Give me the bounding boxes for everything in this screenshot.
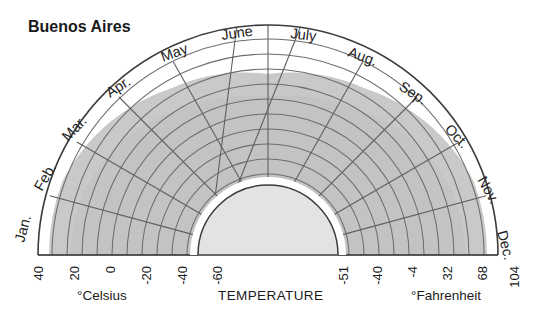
fahrenheit-tick-2: -4: [405, 266, 420, 278]
celsius-axis-caption: °Celsius: [77, 288, 127, 303]
radial-temperature-chart-svg: Buenos Aires Jan. Feb. Mar. Apr. May Jun…: [0, 0, 533, 319]
fahrenheit-axis-caption: °Fahrenheit: [411, 288, 481, 303]
climate-chart: Buenos Aires Jan. Feb. Mar. Apr. May Jun…: [0, 0, 533, 319]
celsius-tick-2: 0: [103, 266, 118, 273]
fahrenheit-tick-5: 104: [507, 266, 522, 288]
fahrenheit-tick-4: 68: [475, 266, 490, 280]
fahrenheit-tick-0: -51: [336, 266, 351, 285]
celsius-tick-1: 20: [67, 266, 82, 280]
celsius-tick-5: -60: [210, 266, 225, 285]
temperature-axis-caption: TEMPERATURE: [218, 288, 323, 303]
month-label-july: July: [290, 25, 318, 44]
celsius-tick-0: 40: [31, 266, 46, 280]
fahrenheit-tick-3: 32: [440, 266, 455, 280]
celsius-tick-3: -20: [139, 266, 154, 285]
fahrenheit-tick-1: -40: [370, 266, 385, 285]
page-title: Buenos Aires: [28, 18, 131, 35]
celsius-tick-4: -40: [175, 266, 190, 285]
